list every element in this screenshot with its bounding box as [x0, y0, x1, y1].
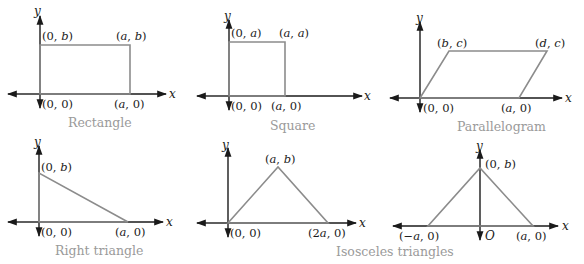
y-axis-label: y [415, 11, 423, 25]
origin-label: O [485, 229, 495, 243]
isosceles-triangle-shape [228, 167, 328, 223]
y-axis-label: y [33, 135, 41, 149]
x-axis-label: x [166, 215, 173, 229]
panel-rectangle: x y (0, 0) (a, 0) (a, b) (0, b) Rectangl… [8, 4, 176, 130]
caption: Rectangle [68, 115, 132, 130]
vertex-label: (a, 0) [516, 229, 547, 243]
y-axis-label: y [221, 138, 229, 152]
y-axis-label: y [223, 9, 231, 23]
right-triangle-shape [39, 173, 128, 222]
x-axis-label: x [169, 87, 176, 101]
vertex-label: (0, a) [231, 26, 262, 40]
vertex-label: (b, c) [437, 36, 467, 50]
shared-caption: Isosceles triangles [336, 244, 454, 259]
vertex-label: (a, 0) [501, 101, 532, 115]
vertex-label: (0, 0) [231, 99, 262, 113]
y-axis-label: y [33, 4, 41, 18]
caption: Right triangle [55, 243, 143, 258]
vertex-label: (0, b) [485, 157, 516, 171]
vertex-label: (0, 0) [230, 226, 261, 240]
square-shape [229, 42, 285, 96]
vertex-label: (a, 0) [114, 97, 145, 111]
vertex-label: (a, b) [265, 152, 296, 166]
vertex-label: (a, 0) [271, 99, 302, 113]
vertex-label: (a, a) [279, 26, 309, 40]
coordinate-geometry-figure: x y (0, 0) (a, 0) (a, b) (0, b) Rectangl… [0, 0, 584, 264]
panel-isosceles-triangle-1: x y (0, 0) (2a, 0) (a, b) [197, 138, 366, 240]
vertex-label: (0, 0) [42, 97, 73, 111]
vertex-label: (0, b) [41, 160, 72, 174]
caption: Parallelogram [457, 119, 546, 134]
x-axis-label: x [565, 91, 572, 105]
x-axis-label: x [364, 89, 371, 103]
vertex-label: (0, b) [42, 29, 73, 43]
panel-right-triangle: x y (0, 0) (a, 0) (0, b) Right triangle [8, 135, 173, 258]
panel-isosceles-triangle-2: x y O (−a, 0) (a, 0) (0, b) [393, 139, 569, 243]
parallelogram-shape [420, 51, 547, 98]
vertex-label: (d, c) [535, 36, 565, 50]
panel-square: x y (0, 0) (a, 0) (a, a) (0, a) Square [197, 9, 371, 133]
x-axis-label: x [562, 219, 569, 233]
rectangle-shape [40, 45, 130, 94]
caption: Square [270, 118, 315, 133]
panel-parallelogram: x y (0, 0) (a, 0) (d, c) (b, c) Parallel… [390, 11, 572, 134]
vertex-label: (2a, 0) [308, 226, 346, 240]
vertex-label: (0, 0) [423, 101, 454, 115]
vertex-label: (a, b) [116, 29, 147, 43]
vertex-label: (−a, 0) [399, 229, 439, 243]
vertex-label: (a, 0) [115, 225, 146, 239]
y-axis-label: y [475, 139, 483, 153]
x-axis-label: x [359, 216, 366, 230]
vertex-label: (0, 0) [41, 225, 72, 239]
